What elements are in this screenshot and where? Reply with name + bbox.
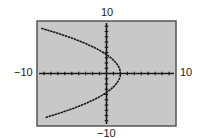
plot-area [0,0,198,138]
